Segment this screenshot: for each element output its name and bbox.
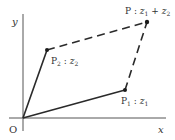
x-axis-label: x xyxy=(158,124,164,135)
vector-z2 xyxy=(23,50,47,118)
vector-z1 xyxy=(23,90,125,118)
label-p: P : z1 + z2 xyxy=(125,6,170,17)
point-p2 xyxy=(45,48,49,52)
point-p1 xyxy=(123,88,127,92)
dashed-side-p2-p xyxy=(47,22,147,50)
y-axis-label: y xyxy=(11,16,18,27)
point-p xyxy=(145,20,149,24)
origin-label: O xyxy=(9,124,17,135)
dashed-side-p1-p xyxy=(125,22,147,90)
complex-addition-diagram: y x O P2 : z2 P1 : z1 P : z1 + z2 xyxy=(0,0,175,140)
label-p2: P2 : z2 xyxy=(51,56,78,67)
label-p1: P1 : z1 xyxy=(121,96,148,107)
